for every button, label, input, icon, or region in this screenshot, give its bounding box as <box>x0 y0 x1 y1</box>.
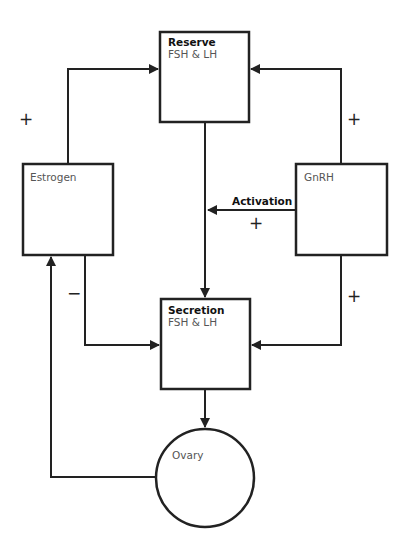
sign-estrogen-reserve: + <box>19 111 33 128</box>
edge-gnrh-reserve <box>251 69 341 164</box>
ovary-circle <box>156 429 254 527</box>
sign-activation: + <box>249 215 263 232</box>
edge-gnrh-secretion <box>252 255 341 345</box>
ovary-label: Ovary <box>172 449 203 461</box>
diagram-canvas <box>0 0 410 554</box>
reserve-subtitle: FSH & LH <box>168 48 217 60</box>
gnrh-label: GnRH <box>304 171 334 183</box>
sign-estrogen-secretion: − <box>67 285 81 302</box>
activation-label: Activation <box>232 195 292 207</box>
sign-gnrh-reserve: + <box>347 111 361 128</box>
reserve-title: Reserve <box>168 36 217 48</box>
sign-gnrh-secretion: + <box>347 288 361 305</box>
estrogen-label: Estrogen <box>30 171 77 183</box>
edge-estrogen-secretion <box>85 255 159 345</box>
secretion-label: Secretion FSH & LH <box>168 304 225 328</box>
edge-estrogen-reserve <box>68 69 158 164</box>
secretion-title: Secretion <box>168 304 225 316</box>
reserve-label: Reserve FSH & LH <box>168 36 217 60</box>
secretion-subtitle: FSH & LH <box>168 316 217 328</box>
